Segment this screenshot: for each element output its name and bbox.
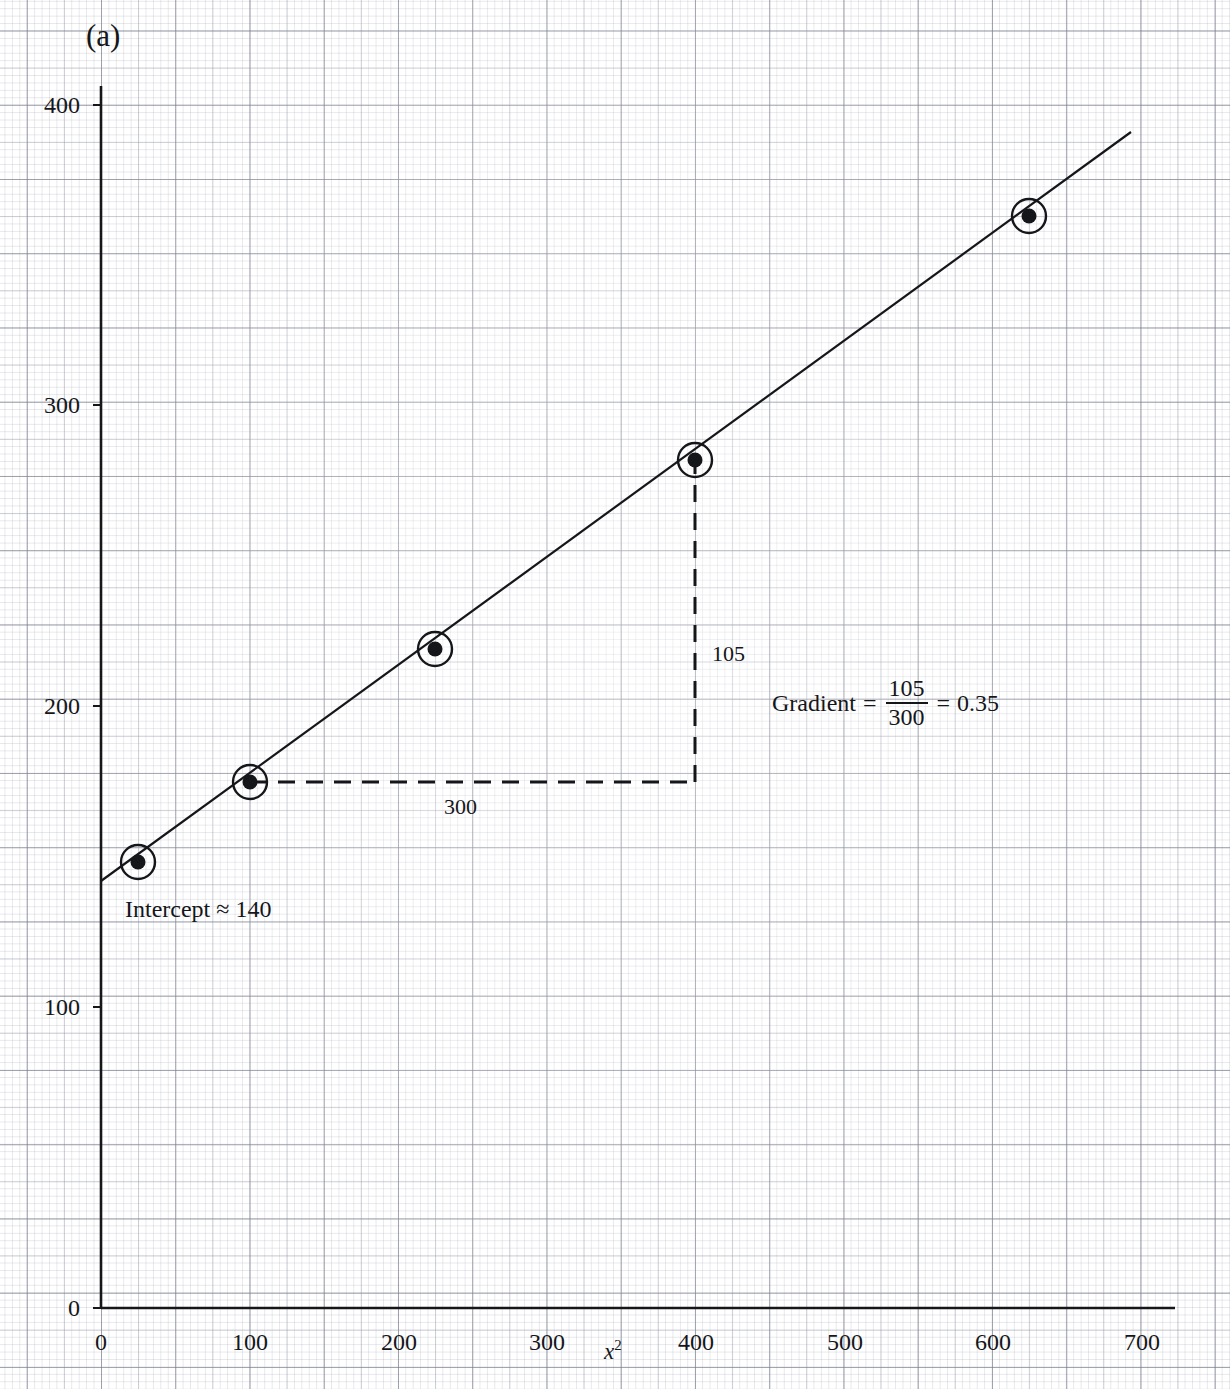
- gradient-value: 0.35: [957, 691, 999, 715]
- x-tick-label-200: 200: [364, 1330, 434, 1354]
- y-tick-label-0: 0: [10, 1296, 80, 1320]
- gradient-equals-2: =: [937, 691, 951, 715]
- fraction-denominator: 300: [886, 704, 928, 730]
- x-tick-label-100: 100: [215, 1330, 285, 1354]
- intercept-annotation: Intercept ≈ 140: [125, 897, 271, 921]
- x-tick-label-700: 700: [1107, 1330, 1177, 1354]
- panel-letter: (a): [86, 20, 120, 51]
- y-tick-label-400: 400: [10, 93, 80, 117]
- fraction-numerator: 105: [886, 676, 928, 702]
- y-tick-label-100: 100: [10, 995, 80, 1019]
- run-value-label: 300: [444, 796, 477, 818]
- x-tick-label-0: 0: [66, 1330, 136, 1354]
- gradient-fraction: 105 300: [886, 676, 928, 730]
- x-tick-label-400: 400: [661, 1330, 731, 1354]
- x-axis-title: x2: [604, 1338, 622, 1363]
- y-tick-label-200: 200: [10, 694, 80, 718]
- x-tick-label-500: 500: [810, 1330, 880, 1354]
- gradient-word: Gradient: [772, 691, 856, 715]
- x-axis-exponent: 2: [614, 1337, 622, 1353]
- figure-canvas: (a) 0 100 200 300 400 0 100 200 300 400 …: [0, 0, 1230, 1389]
- x-tick-label-600: 600: [958, 1330, 1028, 1354]
- y-tick-label-300: 300: [10, 393, 80, 417]
- gradient-equals-1: =: [863, 691, 877, 715]
- scatter-plot: [0, 0, 1230, 1389]
- best-fit-line: [101, 132, 1131, 881]
- gradient-equation: Gradient = 105 300 = 0.35: [772, 676, 999, 730]
- x-tick-label-300: 300: [512, 1330, 582, 1354]
- rise-value-label: 105: [712, 643, 745, 665]
